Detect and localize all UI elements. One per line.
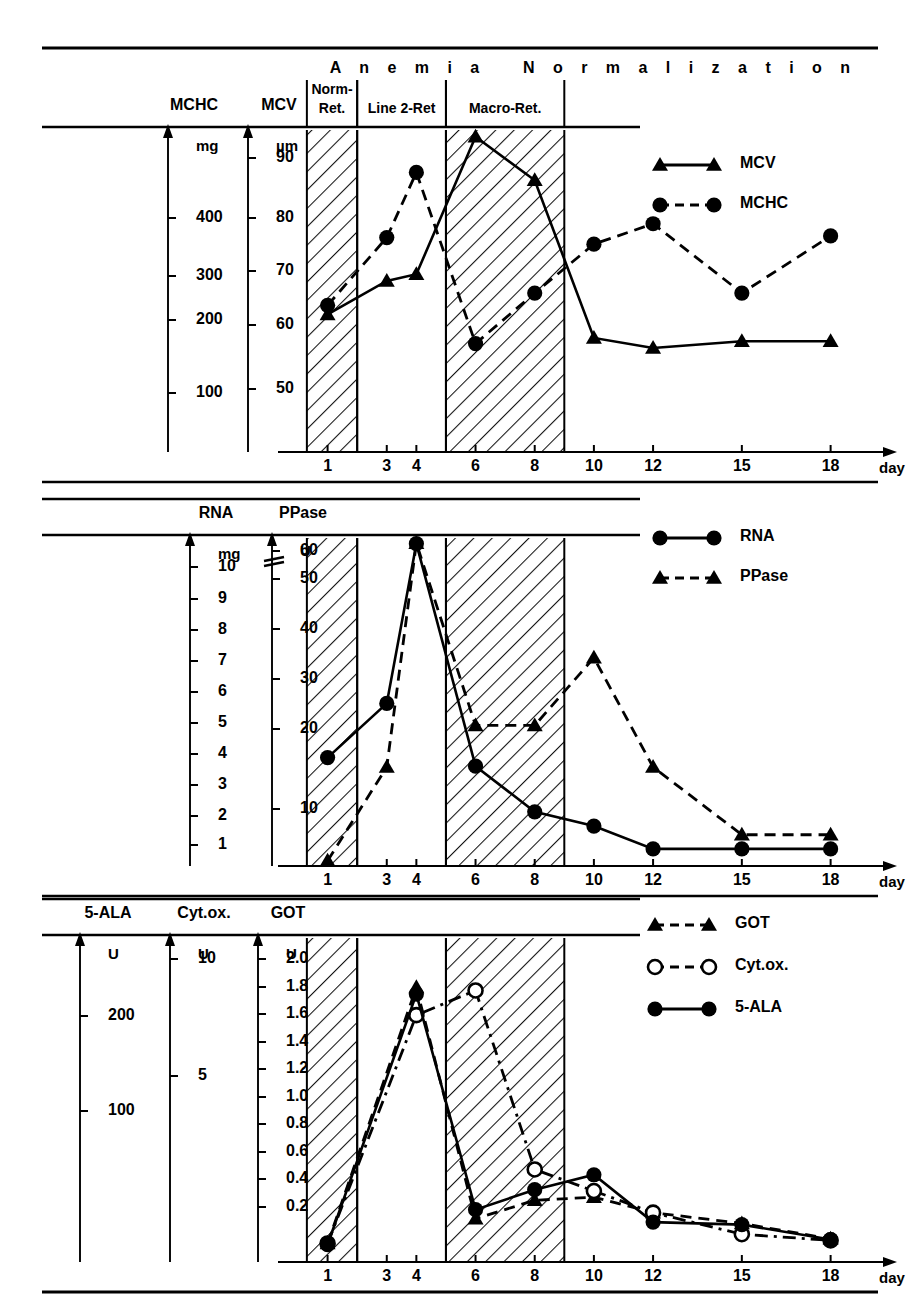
hatched-band-macro-ret bbox=[446, 938, 564, 1262]
y-axis-unit: U bbox=[108, 946, 119, 961]
y-axis-unit: mg bbox=[196, 138, 219, 153]
legend-label-legend-got[interactable]: GOT bbox=[735, 915, 770, 931]
x-tick-label-12: 12 bbox=[644, 872, 662, 888]
x-axis-arrow bbox=[883, 1257, 897, 1267]
axis-title-got: GOT bbox=[271, 905, 306, 921]
data-point-mchc bbox=[586, 237, 601, 252]
y-tick-label: 100 bbox=[108, 1102, 135, 1118]
axis-title-ppase: PPase bbox=[279, 505, 327, 521]
y-tick-label: 50 bbox=[300, 570, 318, 586]
legend-label-legend-ala[interactable]: 5-ALA bbox=[735, 999, 782, 1015]
phase-label-anemia: A n e m i a bbox=[330, 60, 486, 76]
x-tick-label-6: 6 bbox=[471, 458, 480, 474]
legend-marker-legend-mchc bbox=[652, 197, 667, 212]
hatched-band-macro-ret bbox=[446, 130, 564, 452]
legend-label-legend-mcv[interactable]: MCV bbox=[740, 155, 776, 171]
y-tick-label: 0.6 bbox=[286, 1143, 308, 1159]
x-tick-label-15: 15 bbox=[733, 872, 751, 888]
x-tick-label-12: 12 bbox=[644, 1268, 662, 1284]
data-point-5-ala bbox=[645, 1215, 660, 1230]
y-tick-label: 90 bbox=[276, 149, 294, 165]
axis-break-mark bbox=[264, 557, 284, 561]
data-point-5-ala bbox=[468, 1202, 483, 1217]
data-point-5-ala bbox=[527, 1182, 542, 1197]
legend-marker-legend-cytox bbox=[702, 960, 716, 974]
legend-label-legend-mchc[interactable]: MCHC bbox=[740, 195, 788, 211]
y-tick-label: 1 bbox=[218, 836, 227, 852]
x-axis-label: day bbox=[879, 1270, 905, 1285]
band-label-norm-ret-2: Ret. bbox=[319, 101, 345, 115]
data-point-ppase bbox=[645, 759, 661, 773]
y-tick-label: 8 bbox=[218, 621, 227, 637]
y-tick-label: 0.8 bbox=[286, 1115, 308, 1131]
x-tick-label-1: 1 bbox=[323, 458, 332, 474]
y-tick-label: 60 bbox=[276, 316, 294, 332]
x-tick-label-8: 8 bbox=[530, 458, 539, 474]
data-point-cyt-ox- bbox=[587, 1184, 601, 1198]
data-point-mchc bbox=[379, 230, 394, 245]
x-tick-label-15: 15 bbox=[733, 1268, 751, 1284]
data-point-5-ala bbox=[823, 1232, 838, 1247]
y-tick-label: 5 bbox=[218, 714, 227, 730]
data-point-rna bbox=[379, 696, 394, 711]
x-tick-label-6: 6 bbox=[471, 872, 480, 888]
legend-marker-legend-cytox bbox=[648, 960, 662, 974]
y-tick-label: 70 bbox=[276, 262, 294, 278]
x-tick-label-10: 10 bbox=[585, 872, 603, 888]
x-tick-label-4: 4 bbox=[412, 872, 421, 888]
band-label-norm-ret: Norm- bbox=[311, 82, 352, 96]
y-tick-label: 100 bbox=[196, 384, 223, 400]
x-tick-label-4: 4 bbox=[412, 1268, 421, 1284]
y-tick-label: 30 bbox=[300, 670, 318, 686]
series-line-rna bbox=[328, 544, 831, 849]
data-point-5-ala bbox=[320, 1237, 335, 1252]
data-point-cyt-ox- bbox=[469, 983, 483, 997]
legend-label-legend-cytox[interactable]: Cyt.ox. bbox=[735, 957, 788, 973]
hatched-band-norm-ret bbox=[307, 130, 357, 452]
series-line-got bbox=[328, 987, 831, 1243]
data-point-5-ala bbox=[734, 1217, 749, 1232]
axis-title-cyt-ox-: Cyt.ox. bbox=[177, 905, 230, 921]
x-tick-label-6: 6 bbox=[471, 1268, 480, 1284]
x-axis-label: day bbox=[879, 460, 905, 475]
y-tick-label: 1.6 bbox=[286, 1005, 308, 1021]
y-tick-label: 80 bbox=[276, 209, 294, 225]
legend-label-legend-rna[interactable]: RNA bbox=[740, 528, 775, 544]
x-tick-label-10: 10 bbox=[585, 458, 603, 474]
data-point-5-ala bbox=[586, 1167, 601, 1182]
x-tick-label-8: 8 bbox=[530, 1268, 539, 1284]
y-tick-label: 10 bbox=[218, 558, 236, 574]
y-tick-label: 400 bbox=[196, 209, 223, 225]
y-tick-label: 4 bbox=[218, 745, 227, 761]
legend-marker-legend-rna bbox=[652, 530, 667, 545]
x-tick-label-18: 18 bbox=[822, 872, 840, 888]
data-point-mchc bbox=[645, 216, 660, 231]
data-point-ppase bbox=[379, 759, 395, 773]
hatched-band-norm-ret bbox=[307, 538, 357, 866]
legend-label-legend-ppase[interactable]: PPase bbox=[740, 568, 788, 584]
band-label-line2-ret: Line 2-Ret bbox=[368, 101, 436, 115]
y-tick-label: 60 bbox=[300, 542, 318, 558]
data-point-mchc bbox=[468, 336, 483, 351]
data-point-mchc bbox=[527, 285, 542, 300]
y-tick-label: 2.0 bbox=[286, 950, 308, 966]
x-tick-label-18: 18 bbox=[822, 458, 840, 474]
y-tick-label: 9 bbox=[218, 590, 227, 606]
y-tick-label: 3 bbox=[218, 776, 227, 792]
data-point-mchc bbox=[409, 165, 424, 180]
axis-title-mcv: MCV bbox=[261, 97, 297, 113]
x-tick-label-4: 4 bbox=[412, 458, 421, 474]
y-tick-label: 7 bbox=[218, 652, 227, 668]
hatched-band-norm-ret bbox=[307, 938, 357, 1262]
data-point-rna bbox=[734, 841, 749, 856]
y-tick-label: 10 bbox=[300, 800, 318, 816]
y-tick-label: 1.8 bbox=[286, 978, 308, 994]
series-line-5-ala bbox=[328, 994, 831, 1244]
x-axis-arrow bbox=[883, 861, 897, 871]
legend-marker-legend-ala bbox=[647, 1001, 662, 1016]
figure-canvas: A n e m i aN o r m a l i z a t i o nNorm… bbox=[0, 0, 918, 1308]
y-tick-label: 20 bbox=[300, 720, 318, 736]
x-axis-arrow bbox=[883, 447, 897, 457]
phase-label-normalization: N o r m a l i z a t i o n bbox=[523, 60, 857, 76]
data-point-cyt-ox- bbox=[528, 1162, 542, 1176]
